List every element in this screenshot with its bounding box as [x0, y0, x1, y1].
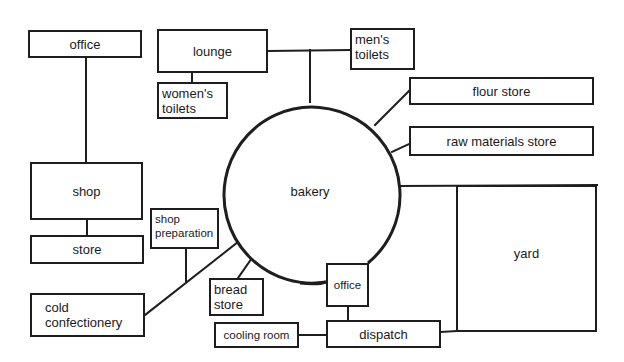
yard-label: yard [514, 246, 539, 261]
store-box[interactable]: store [30, 235, 144, 264]
flour-store-label: flour store [473, 84, 531, 99]
office-bottom-box[interactable]: office [326, 263, 369, 307]
bakery-label: bakery [290, 184, 329, 199]
raw-materials-store-label: raw materials store [447, 134, 557, 149]
flour-store-box[interactable]: flour store [409, 77, 594, 105]
line-bakery-raw-materials [392, 144, 409, 152]
lounge-box[interactable]: lounge [157, 29, 268, 73]
office-bottom-label: office [334, 278, 361, 292]
shop-label: shop [72, 184, 100, 199]
womens-toilets-box[interactable]: women's toilets [157, 82, 228, 119]
yard-box[interactable]: yard [456, 185, 597, 332]
cooling-room-box[interactable]: cooling room [214, 322, 299, 348]
womens-toilets-label: women's toilets [162, 86, 213, 116]
store-label: store [73, 242, 102, 257]
mens-toilets-label: men's toilets [355, 32, 389, 62]
office-top-label: office [70, 37, 101, 52]
raw-materials-store-box[interactable]: raw materials store [409, 126, 594, 156]
cold-confectionery-label: cold confectionery [45, 300, 122, 330]
cold-confectionery-box[interactable]: cold confectionery [30, 293, 145, 337]
bread-store-label: bread store [214, 282, 247, 312]
cooling-room-label: cooling room [224, 328, 290, 342]
shop-preparation-label: shop preparation [155, 212, 213, 240]
line-dispatch-yard [441, 331, 456, 332]
line-bakery-flour-store [375, 91, 409, 125]
line-bakery-bread-store [238, 258, 252, 278]
dispatch-box[interactable]: dispatch [326, 320, 441, 348]
dispatch-label: dispatch [359, 327, 407, 342]
lounge-label: lounge [193, 44, 232, 59]
office-top-box[interactable]: office [28, 30, 142, 58]
mens-toilets-box[interactable]: men's toilets [350, 28, 415, 70]
shop-box[interactable]: shop [30, 162, 143, 220]
bread-store-box[interactable]: bread store [209, 278, 264, 316]
shop-preparation-box[interactable]: shop preparation [150, 208, 219, 249]
bakery-layout-diagram: bakery office lounge women's toilets men… [0, 0, 624, 362]
